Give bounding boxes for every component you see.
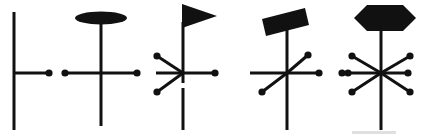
scan-speck-bottom-right (352, 131, 396, 134)
node-dot (153, 52, 160, 59)
hexagon-head-icon (354, 5, 416, 31)
node-dot (348, 88, 355, 95)
scan-artifacts (352, 131, 396, 134)
node-dot (406, 88, 413, 95)
node-dot (344, 69, 351, 76)
node-dot (304, 51, 311, 58)
node-dot (404, 69, 411, 76)
node-dot (133, 69, 140, 76)
node-dot (153, 88, 160, 95)
node-dot (406, 52, 413, 59)
symbol-series-diagram (0, 0, 422, 136)
node-dot (315, 69, 322, 76)
node-dot (348, 52, 355, 59)
node-dot (258, 88, 265, 95)
node-dot (211, 69, 218, 76)
figure-canvas (0, 0, 422, 136)
node-dot (61, 69, 68, 76)
node-dot (45, 69, 52, 76)
